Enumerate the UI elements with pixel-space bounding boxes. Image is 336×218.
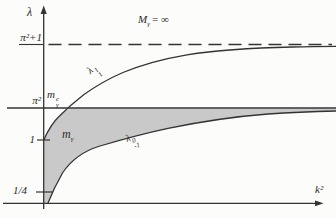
m-gamma-c-label: mcγ	[47, 89, 59, 108]
top-condition-rest: = ∞	[152, 13, 169, 25]
top-condition-base: M	[138, 13, 147, 25]
m-gamma-sub: γ	[71, 135, 74, 143]
tick-one-label: 1	[25, 134, 35, 146]
eigenvalue-diagram: λ Mγ= ∞ π²+1 π² mcγ mγ λ11 λ0-1 1 1/4 k²	[0, 0, 336, 218]
m-gamma-c-sub: γ	[56, 103, 59, 109]
pi2-label: π²	[13, 95, 41, 107]
plot-canvas	[0, 0, 336, 218]
pi2plus1-label: π²+1	[13, 32, 42, 44]
y-axis-arrow-icon	[41, 6, 47, 15]
m-gamma-c-base: m	[47, 88, 55, 100]
m-gamma-base: m	[62, 127, 71, 141]
top-condition-sub: γ	[147, 20, 150, 28]
x-axis-arrow-icon	[315, 200, 324, 206]
x-axis-label: k²	[315, 184, 323, 196]
top-condition-label: Mγ= ∞	[138, 14, 169, 28]
shaded-region-m-gamma	[44, 109, 336, 203]
y-axis-label: λ	[27, 6, 32, 19]
m-gamma-region-label: mγ	[62, 128, 73, 143]
tick-quarter-label: 1/4	[7, 185, 27, 197]
